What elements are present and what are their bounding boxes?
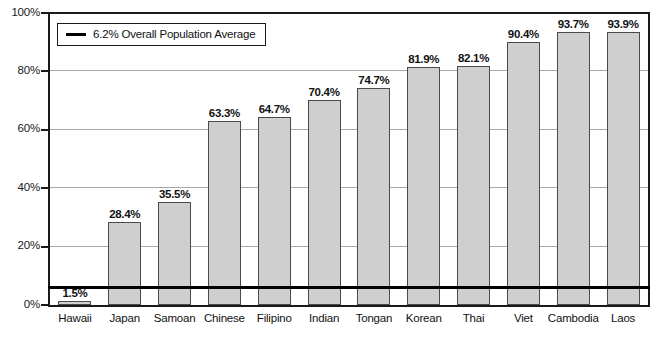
bar-value-label-filipino: 64.7%: [244, 103, 305, 115]
y-tick-label-80: 80%: [0, 64, 40, 76]
bar-chart-figure: 100% 80% 60% 40% 20% 0% 1.5%28.4%35.5%63…: [0, 0, 662, 349]
bar-filipino: [258, 117, 291, 305]
bar-group-japan: 28.4%: [108, 14, 141, 305]
y-tick-mark-0: [41, 304, 48, 306]
y-tick-label-0: 0%: [0, 298, 40, 310]
bar-value-label-samoan: 35.5%: [144, 188, 205, 200]
legend: 6.2% Overall Population Average: [57, 23, 266, 46]
bar-indian: [308, 100, 341, 305]
bar-korean: [407, 67, 440, 305]
bar-tongan: [357, 88, 390, 305]
y-tick-mark-20: [41, 246, 48, 248]
bar-chinese: [208, 121, 241, 305]
bar-group-thai: 82.1%: [457, 14, 490, 305]
bar-group-tongan: 74.7%: [357, 14, 390, 305]
bar-group-filipino: 64.7%: [258, 14, 291, 305]
bar-value-label-indian: 70.4%: [294, 86, 355, 98]
bar-value-label-laos: 93.9%: [593, 18, 654, 30]
bar-group-korean: 81.9%: [407, 14, 440, 305]
bar-value-label-japan: 28.4%: [94, 208, 155, 220]
bar-group-laos: 93.9%: [607, 14, 640, 305]
y-tick-label-60: 60%: [0, 122, 40, 134]
bar-group-samoan: 35.5%: [158, 14, 191, 305]
bar-thai: [457, 66, 490, 305]
y-tick-label-20: 20%: [0, 239, 40, 251]
x-axis: HawaiiJapanSamoanChineseFilipinoIndianTo…: [50, 312, 648, 330]
bar-group-cambodia: 93.7%: [557, 14, 590, 305]
y-tick-label-100: 100%: [0, 6, 40, 18]
bar-value-label-thai: 82.1%: [443, 52, 504, 64]
bar-group-indian: 70.4%: [308, 14, 341, 305]
bar-group-viet: 90.4%: [507, 14, 540, 305]
bar-cambodia: [557, 32, 590, 305]
y-tick-mark-100: [41, 12, 48, 14]
y-tick-mark-80: [41, 70, 48, 72]
bar-hawaii: [58, 301, 91, 305]
y-axis: 100% 80% 60% 40% 20% 0%: [0, 0, 44, 349]
y-tick-mark-40: [41, 187, 48, 189]
overall-average-reference-line: [48, 286, 650, 289]
legend-entry-label: 6.2% Overall Population Average: [93, 28, 255, 40]
x-tick-label-laos: Laos: [592, 312, 654, 324]
y-tick-label-40: 40%: [0, 181, 40, 193]
bar-value-label-tongan: 74.7%: [343, 74, 404, 86]
bar-group-chinese: 63.3%: [208, 14, 241, 305]
bar-viet: [507, 42, 540, 305]
bar-samoan: [158, 202, 191, 305]
bar-laos: [607, 32, 640, 305]
y-tick-mark-60: [41, 129, 48, 131]
bar-japan: [108, 222, 141, 305]
bars-container: 1.5%28.4%35.5%63.3%64.7%70.4%74.7%81.9%8…: [50, 14, 648, 305]
bar-group-hawaii: 1.5%: [58, 14, 91, 305]
reference-line-swatch-icon: [66, 33, 86, 36]
